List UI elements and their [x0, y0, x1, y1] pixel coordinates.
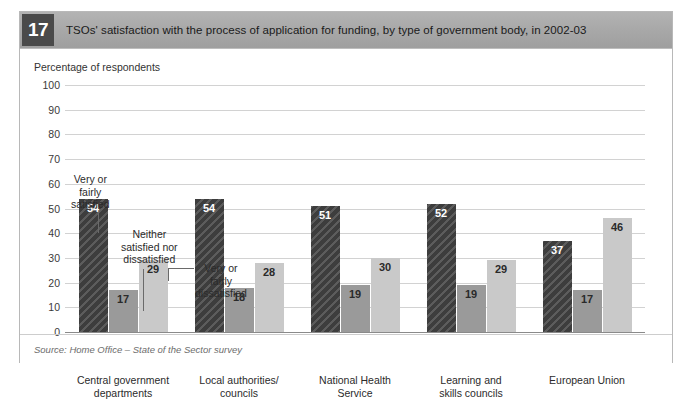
annotation-line: fairly: [71, 186, 110, 199]
bar-value-label: 54: [195, 202, 224, 214]
source-divider: [20, 334, 672, 335]
y-axis-tick-label: 80: [20, 128, 60, 140]
category-label-line: skills councils: [401, 387, 541, 400]
y-axis-tick-label: 90: [20, 104, 60, 116]
bar-group: 511930: [311, 85, 400, 332]
bar-dissatisfied: 46: [603, 218, 632, 332]
annotation-line: Very or: [71, 173, 110, 186]
bar-value-label: 52: [427, 207, 456, 219]
y-axis-tick-label: 20: [20, 277, 60, 289]
leader-line-neither: [143, 269, 144, 311]
y-axis-tick-label: 30: [20, 252, 60, 264]
annotation-line: satisfied nor: [121, 241, 178, 254]
annotation-line: dissatisfied: [195, 287, 247, 300]
annotation-very-or-fairly-satisfied: Very orfairlysatisfied: [71, 173, 110, 211]
bar-value-label: 17: [109, 293, 138, 305]
y-axis-ticks: 1009080706050403020100: [20, 85, 65, 332]
bar-value-label: 17: [573, 293, 602, 305]
bar-dissatisfied: 29: [487, 260, 516, 332]
leader-line-dissatisfied-vertical: [168, 268, 169, 281]
bar-value-label: 19: [341, 288, 370, 300]
bar-satisfied: 54: [79, 199, 108, 332]
figure-title: TSOs' satisfaction with the process of a…: [66, 24, 586, 36]
annotation-line: satisfied: [71, 198, 110, 211]
bar-group: 371746: [543, 85, 632, 332]
x-axis-category-label: European Union: [517, 374, 657, 387]
bar-dissatisfied: 28: [255, 263, 284, 332]
bar-neither: 19: [341, 285, 370, 332]
y-axis-tick-label: 40: [20, 227, 60, 239]
bar-value-label: 28: [255, 266, 284, 278]
bar-value-label: 29: [487, 263, 516, 275]
bar-satisfied: 37: [543, 241, 572, 332]
bar-neither: 19: [457, 285, 486, 332]
figure-number-badge: 17: [22, 14, 54, 46]
bar-satisfied: 52: [427, 204, 456, 332]
source-note: Source: Home Office – State of the Secto…: [34, 344, 242, 355]
leader-line-satisfied: [98, 212, 99, 233]
annotation-line: fairly: [195, 275, 247, 288]
bar-value-label: 46: [603, 221, 632, 233]
annotation-very-or-fairly-dissatisfied: Very orfairlydissatisfied: [195, 262, 247, 300]
annotation-neither-satisfied-nor-dissatisfied: Neithersatisfied nordissatisfied: [121, 228, 178, 266]
bar-neither: 17: [573, 290, 602, 332]
x-axis-line: [65, 332, 645, 333]
bar-group: 521929: [427, 85, 516, 332]
category-label-line: European Union: [517, 374, 657, 387]
y-axis-tick-label: 0: [20, 326, 60, 338]
figure-header: 17 TSOs' satisfaction with the process o…: [20, 12, 672, 49]
bar-neither: 17: [109, 290, 138, 332]
y-axis-label: Percentage of respondents: [34, 61, 160, 73]
y-axis-tick-label: 10: [20, 301, 60, 313]
annotation-line: dissatisfied: [121, 253, 178, 266]
figure-panel: 17 TSOs' satisfaction with the process o…: [19, 11, 673, 363]
leader-line-dissatisfied-horizontal: [168, 268, 194, 269]
bar-value-label: 30: [371, 261, 400, 273]
plot-area: 541729541828511930521929371746 Central g…: [65, 85, 645, 332]
bar-value-label: 51: [311, 209, 340, 221]
y-axis-tick-label: 60: [20, 178, 60, 190]
bar-value-label: 19: [457, 288, 486, 300]
y-axis-tick-label: 100: [20, 79, 60, 91]
annotation-line: Neither: [121, 228, 178, 241]
bar-value-label: 37: [543, 244, 572, 256]
y-axis-tick-label: 70: [20, 153, 60, 165]
annotation-line: Very or: [195, 262, 247, 275]
chart-body: Percentage of respondents 10090807060504…: [20, 49, 672, 363]
y-axis-tick-label: 50: [20, 203, 60, 215]
bar-satisfied: 51: [311, 206, 340, 332]
bar-dissatisfied: 30: [371, 258, 400, 332]
